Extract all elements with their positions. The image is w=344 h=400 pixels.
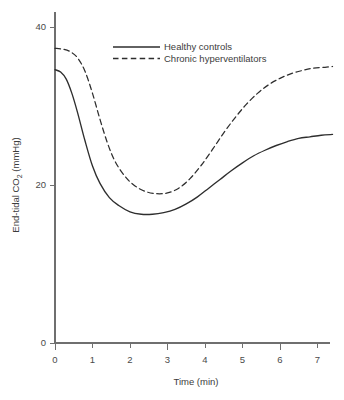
x-tick-label: 5 (240, 354, 245, 365)
x-tick-label: 7 (315, 354, 320, 365)
x-tick-label: 4 (202, 354, 207, 365)
y-axis-title: End-tidal CO2 (mmHg) (10, 137, 23, 232)
x-tick-label: 0 (52, 354, 57, 365)
y-tick-label: 40 (35, 21, 46, 32)
y-axis-ticks: 02040 (35, 21, 55, 348)
y-tick-label: 20 (35, 179, 46, 190)
x-tick-label: 3 (165, 354, 170, 365)
legend-label-1: Healthy controls (164, 41, 232, 52)
data-series-group (55, 48, 333, 214)
series-line-2 (55, 48, 333, 193)
chart-container: 02040 01234567 Healthy controlsChronic h… (0, 0, 344, 400)
series-line-1 (55, 70, 333, 215)
x-tick-label: 6 (277, 354, 282, 365)
legend-label-2: Chronic hyperventilators (164, 53, 267, 64)
x-axis-ticks: 01234567 (52, 343, 320, 365)
x-tick-label: 1 (90, 354, 95, 365)
x-axis-title: Time (min) (173, 376, 218, 387)
x-tick-label: 2 (127, 354, 132, 365)
chart-legend: Healthy controlsChronic hyperventilators (113, 41, 267, 64)
y-tick-label: 0 (41, 337, 46, 348)
co2-line-chart: 02040 01234567 Healthy controlsChronic h… (0, 0, 344, 400)
